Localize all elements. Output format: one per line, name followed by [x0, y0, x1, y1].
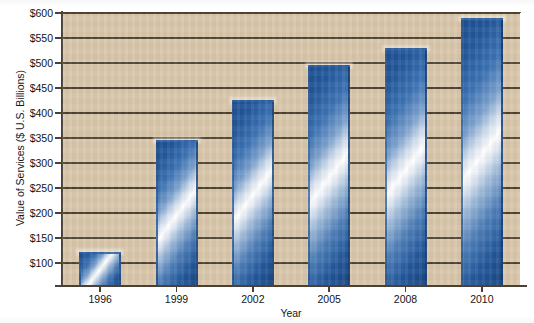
y-axis-tick-label: $500 — [1, 57, 53, 69]
x-axis-tick-label-2005: 2005 — [294, 293, 364, 305]
bar-top — [385, 48, 427, 50]
gridline — [62, 212, 520, 214]
y-axis-tick — [55, 187, 62, 189]
bar-2010 — [461, 18, 503, 285]
x-axis-spine — [55, 285, 527, 287]
bar-2005 — [308, 65, 350, 285]
x-axis-tick-label-2002: 2002 — [218, 293, 288, 305]
bar-edge-right — [196, 140, 198, 285]
x-axis-tick — [252, 286, 254, 292]
y-axis-tick — [55, 262, 62, 264]
y-axis-tick — [55, 37, 62, 39]
y-axis-tick — [55, 12, 62, 14]
x-axis-tick — [405, 286, 407, 292]
y-axis-tick — [55, 137, 62, 139]
y-axis-tick — [55, 112, 62, 114]
x-axis-tick — [176, 286, 178, 292]
bar-top — [156, 140, 198, 142]
bar-2002 — [232, 100, 274, 286]
y-axis-tick-label: $200 — [1, 207, 53, 219]
bar-top — [79, 252, 121, 254]
gridline — [62, 137, 520, 139]
gridline — [62, 62, 520, 64]
bar-1999 — [156, 140, 198, 285]
x-axis-tick — [481, 286, 483, 292]
bar-edge-left — [385, 48, 387, 286]
bar-edge-left — [461, 18, 463, 285]
x-axis-tick — [99, 286, 101, 292]
gridline — [62, 262, 520, 264]
gridline — [62, 112, 520, 114]
x-axis-tick-label-1996: 1996 — [65, 293, 135, 305]
gridline — [62, 37, 520, 39]
gridline — [62, 162, 520, 164]
bar-edge-left — [308, 65, 310, 285]
bar-edge-left — [232, 100, 234, 286]
y-axis-tick-label: $450 — [1, 82, 53, 94]
bar-edge-right — [119, 252, 121, 285]
y-axis-tick — [55, 212, 62, 214]
y-axis-spine — [61, 11, 63, 287]
x-axis-tick-label-2010: 2010 — [447, 293, 517, 305]
bar-2008 — [385, 48, 427, 286]
gridline — [62, 187, 520, 189]
y-axis-tick-label: $300 — [1, 157, 53, 169]
bar-edge-left — [156, 140, 158, 285]
y-axis-tick-label: $100 — [1, 257, 53, 269]
y-axis-tick — [55, 62, 62, 64]
bar-1996 — [79, 252, 121, 285]
gridline — [62, 237, 520, 239]
y-axis-tick-label: $600 — [1, 7, 53, 19]
clipped-title-remnant — [150, 0, 390, 3]
y-axis-tick-label: $250 — [1, 182, 53, 194]
gridline — [62, 12, 520, 14]
bar-top — [232, 100, 274, 102]
y-axis-tick-label: $400 — [1, 107, 53, 119]
bar-chart-figure: Value of Services ($ U.S. Billions) $100… — [0, 0, 534, 323]
y-axis-tick — [55, 162, 62, 164]
plot-area — [62, 13, 520, 285]
x-axis-tick-label-2008: 2008 — [371, 293, 441, 305]
y-axis-tick — [55, 87, 62, 89]
bar-edge-right — [348, 65, 350, 285]
bar-edge-right — [272, 100, 274, 286]
x-axis-title: Year — [62, 307, 520, 319]
y-axis-tick-labels: $100$150$200$250$300$350$400$450$500$550… — [0, 0, 53, 323]
y-axis-tick — [55, 237, 62, 239]
y-axis-tick-label: $350 — [1, 132, 53, 144]
x-axis-tick — [328, 286, 330, 292]
bar-edge-left — [79, 252, 81, 285]
x-axis-tick-label-1999: 1999 — [142, 293, 212, 305]
y-axis-tick-label: $150 — [1, 232, 53, 244]
y-axis-tick-label: $550 — [1, 32, 53, 44]
gridline — [62, 87, 520, 89]
bar-top — [461, 18, 503, 20]
bar-top — [308, 65, 350, 67]
bar-edge-right — [501, 18, 503, 285]
bar-edge-right — [425, 48, 427, 286]
